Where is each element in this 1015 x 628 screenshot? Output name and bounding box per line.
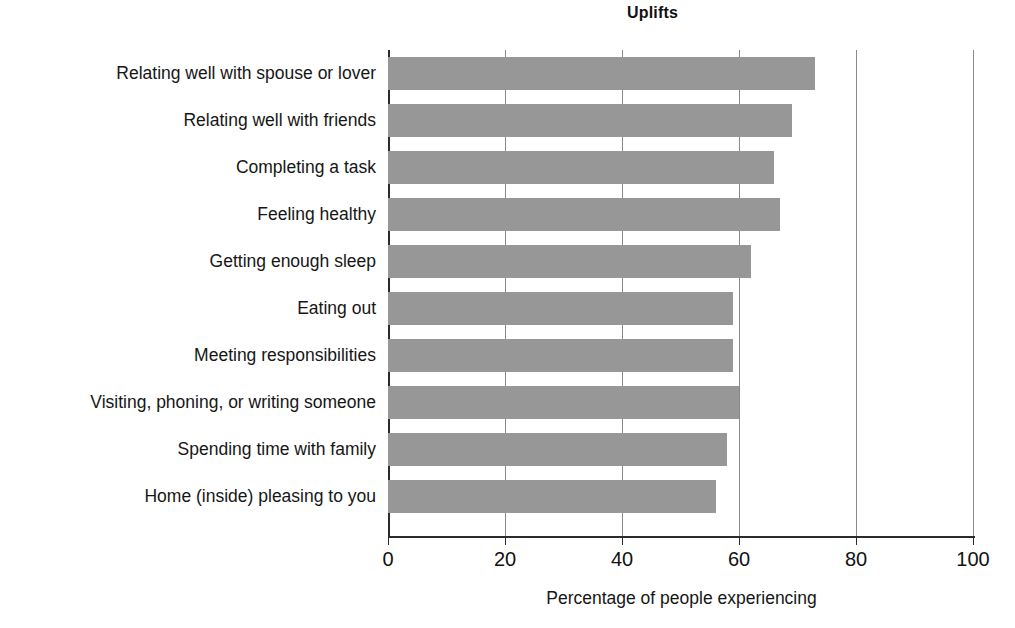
category-label: Visiting, phoning, or writing someone [18, 392, 376, 412]
bar[interactable] [388, 245, 751, 278]
bar[interactable] [388, 104, 792, 137]
x-tick-label-80: 80 [826, 548, 886, 571]
tick-60 [739, 538, 740, 545]
gridline-100 [973, 50, 974, 537]
x-axis-title: Percentage of people experiencing [388, 588, 975, 609]
x-tick-label-0: 0 [358, 548, 418, 571]
category-label: Meeting responsibilities [18, 345, 376, 365]
bar[interactable] [388, 339, 733, 372]
category-label: Home (inside) pleasing to you [18, 486, 376, 506]
bar-row [388, 285, 973, 332]
x-tick-label-100: 100 [943, 548, 1003, 571]
x-tick-label-20: 20 [475, 548, 535, 571]
category-label: Eating out [18, 298, 376, 318]
chart-title: Uplifts [0, 4, 1015, 22]
bar-row [388, 97, 973, 144]
category-label: Feeling healthy [18, 204, 376, 224]
bar-row [388, 473, 973, 520]
category-label: Relating well with spouse or lover [18, 63, 376, 83]
bar-row [388, 191, 973, 238]
category-label: Getting enough sleep [18, 251, 376, 271]
plot-area [388, 50, 973, 537]
bar[interactable] [388, 57, 815, 90]
bar-row [388, 144, 973, 191]
bar[interactable] [388, 292, 733, 325]
bar-row [388, 379, 973, 426]
tick-20 [505, 538, 506, 545]
bar[interactable] [388, 433, 727, 466]
tick-100 [973, 538, 974, 545]
category-label: Relating well with friends [18, 110, 376, 130]
tick-0 [388, 538, 389, 545]
bar[interactable] [388, 480, 716, 513]
bar[interactable] [388, 386, 739, 419]
bar-row [388, 50, 973, 97]
tick-40 [622, 538, 623, 545]
tick-80 [856, 538, 857, 545]
bar-row [388, 332, 973, 379]
x-tick-label-60: 60 [709, 548, 769, 571]
x-tick-label-40: 40 [592, 548, 652, 571]
bar-chart: Uplifts 020406080100 Relating well with … [0, 0, 1015, 628]
category-label: Completing a task [18, 157, 376, 177]
category-label: Spending time with family [18, 439, 376, 459]
bar[interactable] [388, 198, 780, 231]
chart-title-text: Uplifts [627, 4, 678, 22]
bar[interactable] [388, 151, 774, 184]
x-axis-line [388, 536, 975, 538]
bar-row [388, 426, 973, 473]
bar-row [388, 238, 973, 285]
